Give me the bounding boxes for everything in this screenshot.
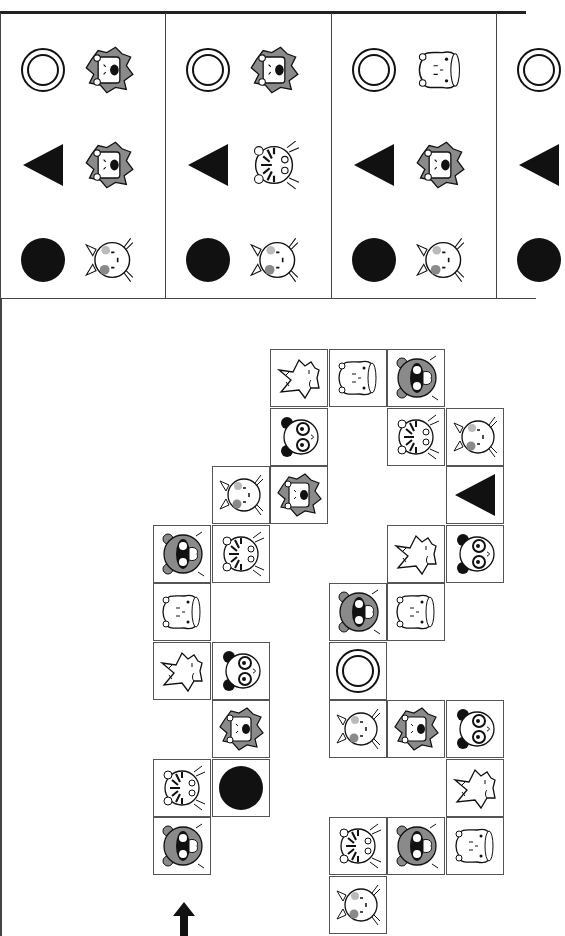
key-row	[332, 135, 496, 195]
fox-icon	[392, 530, 440, 578]
lion-icon	[248, 44, 300, 96]
start-arrow-icon	[173, 902, 195, 936]
cat-icon	[248, 234, 300, 286]
raccoon-icon	[392, 822, 440, 870]
hippo-icon	[451, 822, 499, 870]
key-row	[332, 40, 496, 100]
fox-icon	[275, 354, 323, 402]
grid-cell-tiger[interactable]	[153, 759, 211, 817]
grid-cell-hippo[interactable]	[387, 583, 445, 641]
grid-cell-cat[interactable]	[329, 876, 387, 934]
key-row	[166, 135, 331, 195]
fox-icon	[451, 764, 499, 812]
tiger-icon	[334, 822, 382, 870]
grid-cell-lion[interactable]	[270, 466, 328, 524]
lion-icon	[275, 471, 323, 519]
grid-cell-dot[interactable]	[212, 759, 270, 817]
key-panel-4	[496, 13, 536, 299]
tiger-icon	[217, 530, 265, 578]
grid-cell-tiger[interactable]	[387, 408, 445, 466]
key-row	[166, 40, 331, 100]
tiger-icon	[248, 139, 300, 191]
tiger-icon	[158, 764, 206, 812]
grid-cell-fox[interactable]	[446, 759, 504, 817]
key-row	[1, 40, 165, 100]
grid-cell-fox[interactable]	[387, 525, 445, 583]
lion-icon	[217, 705, 265, 753]
hippo-icon	[334, 354, 382, 402]
key-panel-2	[165, 13, 331, 299]
grid-cell-raccoon[interactable]	[387, 349, 445, 407]
triangle-icon	[515, 141, 563, 189]
panda-icon	[217, 647, 265, 695]
grid-cell-cat[interactable]	[329, 700, 387, 758]
key-panel-1	[0, 13, 165, 299]
key-row	[166, 230, 331, 290]
grid-cell-hippo[interactable]	[446, 817, 504, 875]
raccoon-icon	[334, 588, 382, 636]
raccoon-icon	[158, 822, 206, 870]
cat-icon	[217, 471, 265, 519]
grid-cell-lion[interactable]	[387, 700, 445, 758]
grid-cell-fox[interactable]	[153, 642, 211, 700]
cat-icon	[451, 413, 499, 461]
triangle-icon	[451, 471, 499, 519]
grid-cell-panda[interactable]	[212, 642, 270, 700]
triangle-icon	[19, 141, 67, 189]
grid-cell-cat[interactable]	[446, 408, 504, 466]
grid-cell-raccoon[interactable]	[153, 525, 211, 583]
dot-icon	[19, 236, 67, 284]
cat-icon	[414, 234, 466, 286]
dot-icon	[350, 236, 398, 284]
grid-cell-panda[interactable]	[446, 525, 504, 583]
ring-icon	[515, 46, 563, 94]
panda-icon	[451, 705, 499, 753]
grid-cell-panda[interactable]	[446, 700, 504, 758]
ring-icon	[334, 647, 382, 695]
grid-cell-tiger[interactable]	[212, 525, 270, 583]
key-row	[497, 40, 536, 100]
ring-icon	[19, 46, 67, 94]
grid-cell-lion[interactable]	[212, 700, 270, 758]
triangle-icon	[184, 141, 232, 189]
key-row	[497, 230, 536, 290]
grid-cell-tiger[interactable]	[329, 817, 387, 875]
grid-cell-hippo[interactable]	[329, 349, 387, 407]
grid-cell-raccoon[interactable]	[153, 817, 211, 875]
board-left-border	[0, 299, 2, 936]
hippo-icon	[158, 588, 206, 636]
cat-icon	[83, 234, 135, 286]
key-panel-3	[331, 13, 496, 299]
lion-icon	[414, 139, 466, 191]
ring-icon	[350, 46, 398, 94]
triangle-icon	[350, 141, 398, 189]
hippo-icon	[414, 44, 466, 96]
dot-icon	[217, 764, 265, 812]
grid-cell-ring[interactable]	[329, 642, 387, 700]
grid-cell-fox[interactable]	[270, 349, 328, 407]
cat-icon	[334, 705, 382, 753]
raccoon-icon	[392, 354, 440, 402]
lion-icon	[83, 44, 135, 96]
grid-cell-panda[interactable]	[270, 408, 328, 466]
cat-icon	[334, 881, 382, 929]
panda-icon	[451, 530, 499, 578]
grid-cell-raccoon[interactable]	[329, 583, 387, 641]
grid-cell-cat[interactable]	[212, 466, 270, 524]
tiger-icon	[392, 413, 440, 461]
key-row	[1, 135, 165, 195]
key-row	[332, 230, 496, 290]
lion-icon	[392, 705, 440, 753]
hippo-icon	[392, 588, 440, 636]
fox-icon	[158, 647, 206, 695]
grid-cell-triangle[interactable]	[446, 466, 504, 524]
lion-icon	[83, 139, 135, 191]
raccoon-icon	[158, 530, 206, 578]
grid-cell-raccoon[interactable]	[387, 817, 445, 875]
dot-icon	[515, 236, 563, 284]
key-row	[497, 135, 536, 195]
key-row	[1, 230, 165, 290]
dot-icon	[184, 236, 232, 284]
grid-cell-hippo[interactable]	[153, 583, 211, 641]
ring-icon	[184, 46, 232, 94]
